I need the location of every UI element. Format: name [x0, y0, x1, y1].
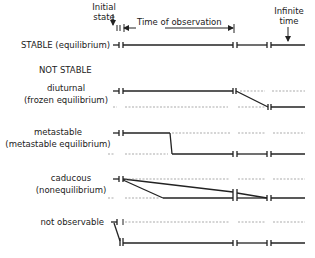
metastable-timeline	[108, 130, 305, 157]
time-of-observation-arrow	[124, 24, 234, 33]
not-observable-timeline	[111, 219, 305, 246]
stability-diagram	[0, 0, 315, 258]
caducous-timeline	[108, 176, 305, 201]
diurnal-timeline	[113, 88, 305, 110]
initial-state-arrow	[113, 14, 120, 31]
stable-timeline	[113, 42, 305, 48]
